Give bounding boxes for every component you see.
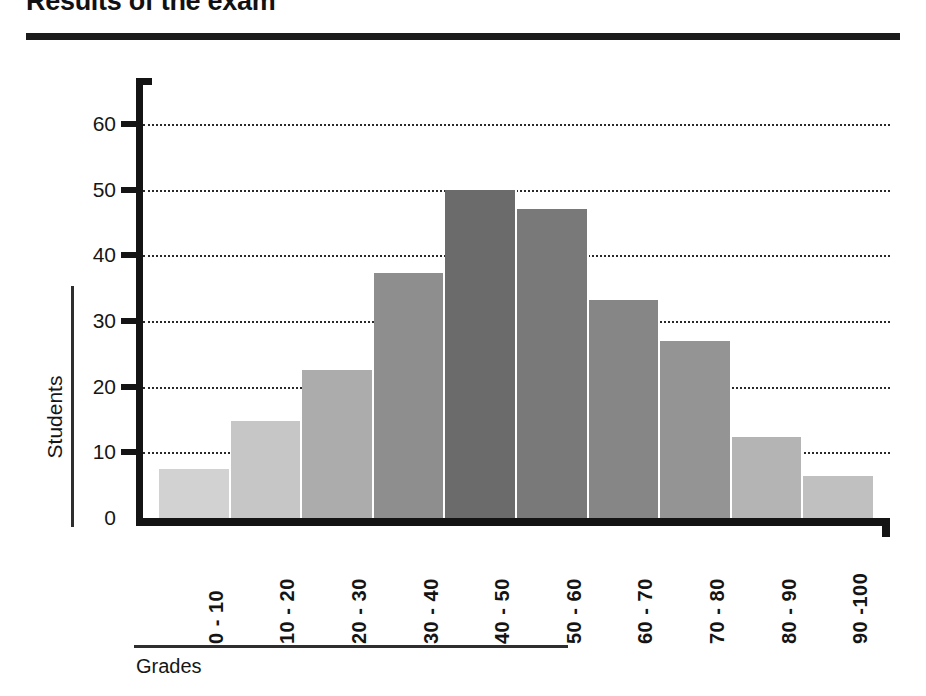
y-axis-tick-label: 40 xyxy=(62,243,116,267)
y-axis-tick xyxy=(121,449,136,455)
y-axis-title-rule xyxy=(71,286,74,527)
y-axis-tick-labels: 0102030405060 xyxy=(46,0,116,696)
y-axis-tick xyxy=(121,318,136,324)
bar[interactable] xyxy=(660,341,732,518)
y-axis-tick-label: 50 xyxy=(62,178,116,202)
x-axis-tick-label: 80 - 90 xyxy=(778,534,800,644)
bar[interactable] xyxy=(732,437,804,518)
x-axis-tick-label: 60 - 70 xyxy=(634,534,656,644)
x-axis-end-tick xyxy=(882,518,890,537)
chart-page: Results of the exam 0102030405060 Studen… xyxy=(0,0,926,696)
y-axis-tick xyxy=(121,121,136,127)
bar-series xyxy=(159,78,875,518)
x-axis-tick-label: 50 - 60 xyxy=(563,534,585,644)
title-divider xyxy=(26,33,900,40)
y-axis-top-tick xyxy=(136,78,152,85)
x-axis-tick-labels: 0 - 1010 - 2020 - 3030 - 4040 - 5050 - 6… xyxy=(159,534,875,634)
x-axis-tick-label: 90 -100 xyxy=(849,534,871,644)
x-axis-tick-label: 40 - 50 xyxy=(491,534,513,644)
x-axis-tick-label: 0 - 10 xyxy=(205,534,227,644)
bar[interactable] xyxy=(231,421,303,518)
bar[interactable] xyxy=(374,273,446,518)
y-axis-title: Students xyxy=(43,357,67,477)
bar[interactable] xyxy=(803,476,875,518)
y-axis-tick xyxy=(121,187,136,193)
x-axis-line xyxy=(136,518,890,526)
y-axis-tick-label: 60 xyxy=(62,112,116,136)
x-axis-title: Grades xyxy=(136,655,202,678)
x-axis-tick-label: 20 - 30 xyxy=(348,534,370,644)
x-axis-tick-label: 30 - 40 xyxy=(420,534,442,644)
bar[interactable] xyxy=(159,469,231,518)
x-axis-tick-label: 70 - 80 xyxy=(706,534,728,644)
y-axis-tick xyxy=(121,384,136,390)
y-axis-line xyxy=(136,78,143,525)
x-axis-title-rule xyxy=(134,645,568,648)
bar[interactable] xyxy=(517,209,589,518)
bar[interactable] xyxy=(445,190,517,518)
bar[interactable] xyxy=(589,300,661,518)
y-axis-tick xyxy=(121,252,136,258)
bar[interactable] xyxy=(302,370,374,518)
x-axis-tick-label: 10 - 20 xyxy=(276,534,298,644)
